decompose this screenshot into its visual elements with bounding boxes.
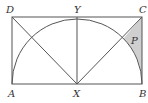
label-x: X xyxy=(72,88,81,99)
label-d: D xyxy=(5,4,14,15)
label-y: Y xyxy=(74,4,82,15)
label-b: B xyxy=(138,88,146,99)
label-p: P xyxy=(130,35,138,46)
label-c: C xyxy=(139,4,147,15)
geometry-diagram: D Y C A X B P xyxy=(0,0,148,103)
label-a: A xyxy=(7,88,15,99)
